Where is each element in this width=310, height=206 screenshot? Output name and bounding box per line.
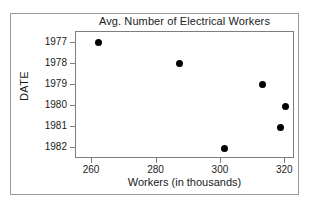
x-axis-tick-label: 280 — [136, 164, 176, 175]
x-axis-tick-label: 320 — [264, 164, 304, 175]
y-axis-tick-label: 1977 — [33, 36, 67, 47]
x-axis-tick-label: 260 — [71, 164, 111, 175]
y-axis-tick-label: 1981 — [33, 120, 67, 131]
data-point — [95, 39, 102, 46]
y-axis-label: DATE — [18, 56, 30, 116]
x-axis-tick-mark — [220, 158, 221, 163]
plot-area-frame — [75, 31, 294, 158]
chart-title: Avg. Number of Electrical Workers — [75, 15, 294, 27]
data-point — [277, 124, 284, 131]
x-axis-tick-mark — [156, 158, 157, 163]
y-axis-tick-label: 1980 — [33, 99, 67, 110]
data-point — [282, 103, 289, 110]
data-point — [259, 81, 266, 88]
x-axis-label: Workers (in thousands) — [75, 176, 294, 188]
x-axis-tick-mark — [284, 158, 285, 163]
y-axis-tick-label: 1978 — [33, 57, 67, 68]
x-axis-tick-label: 300 — [200, 164, 240, 175]
y-axis-tick-label: 1982 — [33, 141, 67, 152]
plot-area — [76, 32, 293, 157]
data-point — [176, 60, 183, 67]
y-axis-tick-label: 1979 — [33, 78, 67, 89]
data-point — [221, 145, 228, 152]
x-axis-tick-mark — [91, 158, 92, 163]
chart-figure: Avg. Number of Electrical Workers DATE W… — [0, 0, 310, 206]
